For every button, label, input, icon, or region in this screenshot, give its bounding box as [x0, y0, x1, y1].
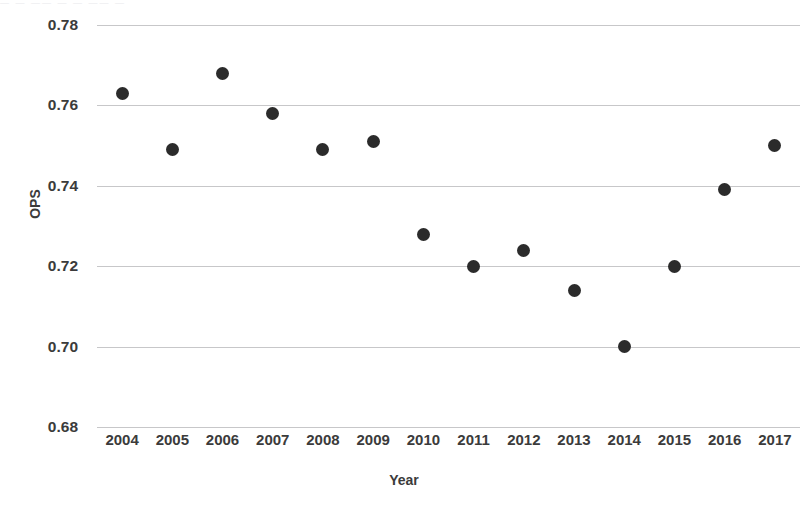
- y-tick-label: 0.72: [0, 258, 78, 274]
- data-point: [718, 183, 731, 196]
- gridline: [97, 427, 800, 428]
- gridline: [97, 25, 800, 26]
- data-point: [568, 284, 581, 297]
- data-point: [417, 228, 430, 241]
- x-tick-label: 2015: [646, 432, 702, 449]
- data-point: [768, 139, 781, 152]
- x-tick-label: 2012: [496, 432, 552, 449]
- data-point: [467, 260, 480, 273]
- data-point: [116, 87, 129, 100]
- y-tick-label: 0.70: [0, 339, 78, 355]
- gridline: [97, 266, 800, 267]
- gridline: [97, 347, 800, 348]
- x-tick-label: 2008: [295, 432, 351, 449]
- x-tick-label: 2004: [94, 432, 150, 449]
- x-tick-label: 2017: [747, 432, 803, 449]
- x-tick-label: 2014: [596, 432, 652, 449]
- data-point: [216, 67, 229, 80]
- x-tick-label: 2013: [546, 432, 602, 449]
- x-tick-label: 2009: [345, 432, 401, 449]
- x-axis-tick-labels: 2004200520062007200820092010201120122013…: [97, 432, 800, 454]
- x-tick-label: 2005: [144, 432, 200, 449]
- y-tick-label: 0.68: [0, 419, 78, 435]
- data-point: [367, 135, 380, 148]
- x-tick-label: 2007: [245, 432, 301, 449]
- data-point: [166, 143, 179, 156]
- data-point: [266, 107, 279, 120]
- x-tick-label: 2016: [697, 432, 753, 449]
- scatter-chart: — — —— — — —— — 0.780.760.740.720.700.68…: [0, 0, 808, 515]
- y-axis-title: OPS: [27, 164, 43, 244]
- y-tick-label: 0.78: [0, 17, 78, 33]
- data-point: [517, 244, 530, 257]
- y-tick-label: 0.76: [0, 97, 78, 113]
- x-tick-label: 2010: [395, 432, 451, 449]
- gridline: [97, 186, 800, 187]
- data-point: [668, 260, 681, 273]
- plot-area: [97, 25, 800, 427]
- y-axis-tick-labels: 0.780.760.740.720.700.68: [0, 25, 88, 427]
- data-point: [316, 143, 329, 156]
- gridline: [97, 105, 800, 106]
- data-point: [618, 340, 631, 353]
- clipped-header-artifact: — — —— — — —— —: [0, 0, 808, 6]
- x-tick-label: 2006: [195, 432, 251, 449]
- x-axis-title: Year: [0, 472, 808, 488]
- x-tick-label: 2011: [446, 432, 502, 449]
